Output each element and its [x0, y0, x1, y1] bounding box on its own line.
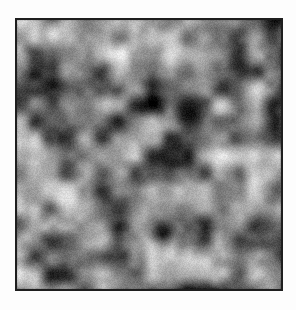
page-root: [0, 0, 296, 310]
noise-heatmap-canvas: [17, 20, 281, 289]
noise-figure-frame: [15, 18, 283, 291]
figure-caption: [15, 293, 283, 308]
